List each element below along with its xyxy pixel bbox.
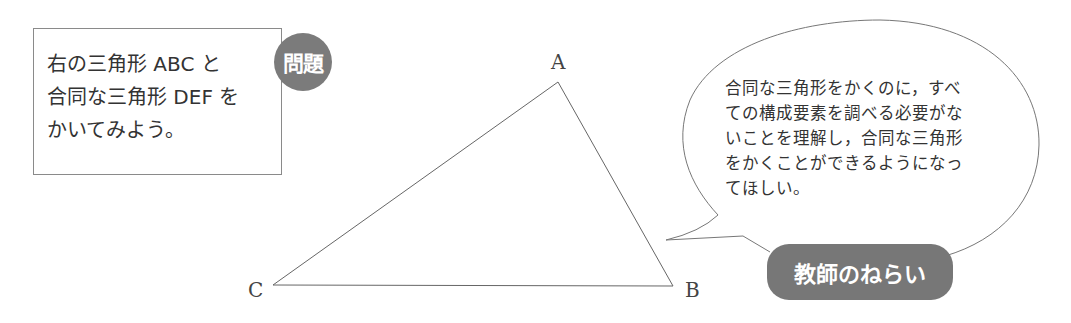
teacher-aim-text: 合同な三角形をかくのに，すべ ての構成要素を調べる必要がな いことを理解し，合同… [725,76,1015,201]
teacher-aim-badge: 教師のねらい [767,244,953,300]
vertex-label-a: A [551,52,565,72]
aim-line-2: ての構成要素を調べる必要がな [725,101,1015,126]
vertex-label-c: C [248,280,263,300]
aim-line-4: をかくことができるようになっ [725,151,1015,176]
aim-line-3: いことを理解し，合同な三角形 [725,126,1015,151]
aim-line-5: てほしい。 [725,176,1015,201]
aim-line-1: 合同な三角形をかくのに，すべ [725,76,1015,101]
triangle-abc [273,82,673,286]
vertex-label-b: B [685,280,700,300]
